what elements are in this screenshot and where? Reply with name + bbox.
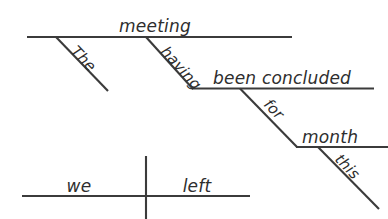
label-this: this <box>331 150 364 183</box>
sentence-diagram-canvas: meeting The having been concluded for mo… <box>0 0 388 219</box>
label-we: we <box>67 176 92 196</box>
label-having: having <box>157 43 205 94</box>
for-preposition-slant-rule <box>240 89 297 148</box>
label-for: for <box>260 95 288 123</box>
label-month: month <box>302 127 358 147</box>
label-left: left <box>183 176 213 196</box>
label-meeting: meeting <box>119 16 191 36</box>
label-been-concluded: been concluded <box>213 68 351 88</box>
label-the: The <box>67 42 100 75</box>
sentence-diagram-svg: meeting The having been concluded for mo… <box>0 0 388 219</box>
